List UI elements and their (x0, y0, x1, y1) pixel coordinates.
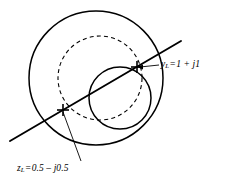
constant-conductance-circle (58, 36, 142, 120)
quarter-wave-chord-line (10, 41, 181, 141)
admittance-label: yL=1 + j1 (161, 60, 200, 70)
impedance-equals: = (25, 163, 32, 173)
impedance-marker-cross (57, 104, 69, 116)
impedance-leader-line (63, 112, 81, 161)
impedance-label: zL=0.5 – j0.5 (17, 164, 69, 174)
figure-canvas (0, 0, 227, 182)
admittance-value: 1 + j1 (176, 59, 200, 69)
chord-line-group (10, 41, 181, 141)
impedance-value: 0.5 – j0.5 (32, 163, 69, 173)
circle-group (29, 11, 163, 145)
smith-chart-figure: yL=1 + j1 zL=0.5 – j0.5 (0, 0, 227, 182)
